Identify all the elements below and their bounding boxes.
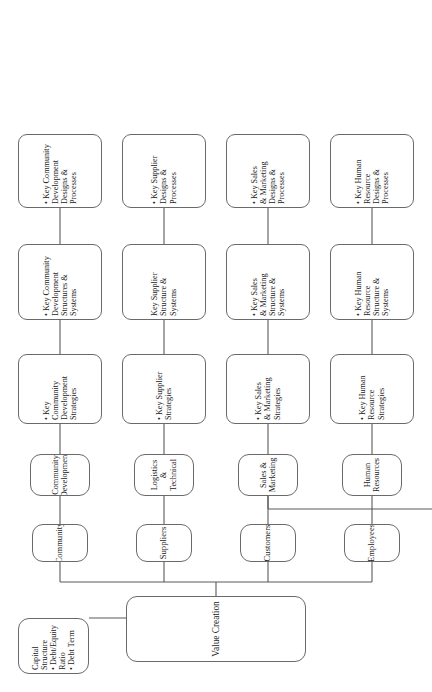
reconfigure-node-community-development: • Key Community Development Structures &… — [18, 244, 102, 320]
function-node-logistics-technical: Logistics & Technical — [134, 454, 194, 496]
creator-node-community: Community — [32, 524, 88, 562]
reengineer-node-human-resource: • Key Human Resource Designs & Processes — [330, 134, 414, 208]
creator-node-employees: Employees — [344, 524, 400, 562]
refocus-node-community-development: • Key Community Development Strategies — [18, 354, 102, 424]
refocus-node-sales-marketing: • Key Sales & Marketing Strategies — [226, 354, 310, 424]
reengineer-node-sales-marketing: • Key Sales & Marketing Designs & Proces… — [226, 134, 310, 208]
reconfigure-node-supplier: Key Supplier Structure & Systems — [122, 244, 206, 320]
refocus-node-human-resource: • Key Human Resource Strategies — [330, 354, 414, 424]
reengineer-node-supplier: • Key Supplier Designs & Processes — [122, 134, 206, 208]
function-node-human-resources: Human Resources — [342, 454, 402, 496]
connector-lines — [0, 0, 432, 692]
refocus-node-supplier: • Key Supplier Strategies — [122, 354, 206, 424]
reconfigure-node-sales-marketing: • Key Sales & Marketing Structure & Syst… — [226, 244, 310, 320]
creator-node-suppliers: Suppliers — [136, 524, 192, 562]
capital-structure-node: Capital Structure • Debt/Equity Ratio • … — [18, 618, 89, 674]
value-creation-diagram: Capital Structure • Debt/Equity Ratio • … — [0, 0, 432, 692]
root-node-value-creation: Value Creation — [126, 596, 306, 662]
function-node-community-development: Community Development — [30, 454, 90, 496]
reconfigure-node-human-resource: • Key Human Resource Structure & Systems — [330, 244, 414, 320]
creator-node-customers: Customers — [240, 524, 296, 562]
diagram-canvas: Capital Structure • Debt/Equity Ratio • … — [0, 0, 432, 692]
reengineer-node-community-development: • Key Community Development Designs & Pr… — [18, 134, 102, 208]
function-node-sales-marketing: Sales & Marketing — [238, 454, 298, 496]
